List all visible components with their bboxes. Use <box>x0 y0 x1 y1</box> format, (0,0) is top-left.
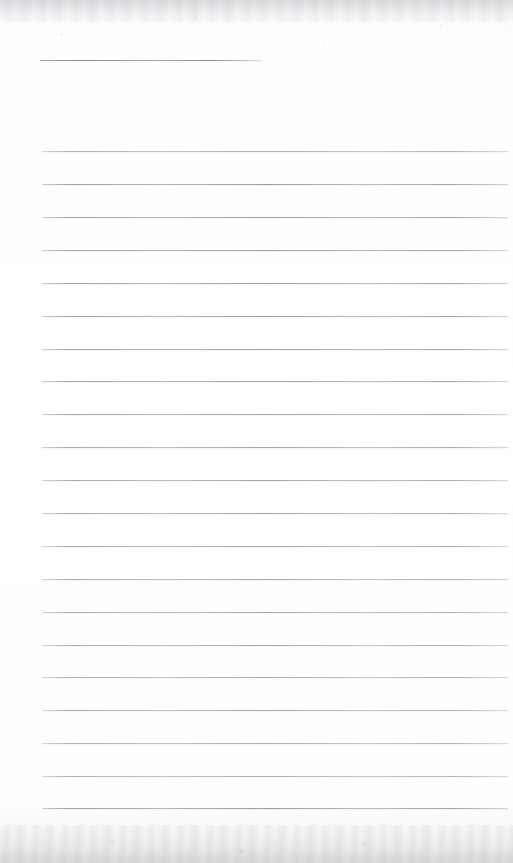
rule-line-short <box>40 60 262 61</box>
rule-line-17 <box>42 677 508 678</box>
paper-grain-texture <box>0 0 513 863</box>
rule-line-8 <box>42 381 508 382</box>
rule-line-2 <box>42 184 508 185</box>
rule-line-14 <box>42 579 508 580</box>
rule-line-11 <box>42 480 508 481</box>
scan-edge-shadow-top <box>0 0 513 22</box>
rule-line-15 <box>42 612 508 613</box>
rule-line-21 <box>42 808 508 809</box>
rule-line-1 <box>42 151 508 152</box>
rule-line-5 <box>42 283 508 284</box>
rule-line-12 <box>42 513 508 514</box>
rule-line-9 <box>42 414 508 415</box>
rule-line-10 <box>42 447 508 448</box>
rule-line-13 <box>42 546 508 547</box>
rule-line-4 <box>42 250 508 251</box>
scanned-page <box>0 0 513 863</box>
rule-line-19 <box>42 743 508 744</box>
scan-edge-shadow-bottom <box>0 825 513 863</box>
rule-line-20 <box>42 776 508 777</box>
rule-line-3 <box>42 217 508 218</box>
rule-line-18 <box>42 710 508 711</box>
rule-line-16 <box>42 645 508 646</box>
rule-line-6 <box>42 316 508 317</box>
rule-line-7 <box>42 349 508 350</box>
